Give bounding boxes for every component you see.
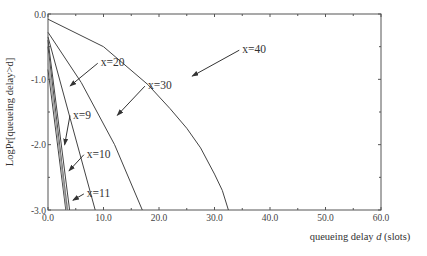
chart: 0.010.020.030.040.050.060.00.0-1.0-2.0-3…: [0, 0, 427, 256]
annotation-label: x=30: [148, 79, 172, 91]
series-line-x-11: [48, 40, 70, 210]
series-line-x-9: [48, 70, 66, 211]
annotation-arrow-icon: [192, 50, 239, 76]
annotation-label: x=20: [101, 56, 125, 68]
x-tick-label: 10.0: [95, 213, 112, 223]
x-tick-label: 50.0: [317, 213, 334, 223]
annotation-label: x=9: [73, 109, 91, 121]
y-axis-title: LogPr[queueing delay>d]: [4, 58, 15, 166]
annotation-label: x=11: [87, 187, 111, 199]
annotations: x=40x=30x=20x=9x=10x=11: [65, 43, 267, 200]
y-tick-label: 0.0: [34, 10, 46, 20]
x-tick-label: 60.0: [373, 213, 390, 223]
x-tick-label: 30.0: [206, 213, 223, 223]
annotation-arrow-icon: [70, 63, 98, 86]
y-tick-label: -3.0: [31, 206, 46, 216]
x-axis-title: queueing delay d (slots): [310, 231, 411, 243]
annotation-label: x=10: [87, 148, 111, 160]
x-tick-label: 20.0: [151, 213, 168, 223]
annotation-arrow-icon: [69, 155, 84, 171]
annotation-arrow-icon: [117, 86, 145, 115]
annotation-arrow-icon: [65, 116, 70, 145]
y-tick-label: -1.0: [31, 75, 46, 85]
annotation-label: x=40: [242, 43, 266, 55]
annotation-arrow-icon: [73, 194, 84, 200]
x-tick-label: 40.0: [262, 213, 279, 223]
y-tick-label: -2.0: [31, 140, 46, 150]
